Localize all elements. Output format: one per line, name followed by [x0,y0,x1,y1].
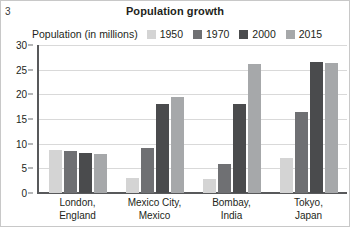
bar-1970 [64,151,77,193]
legend-label-1950: 1950 [160,28,183,40]
category-label: Bombay,India [193,197,270,222]
y-tick-mark [28,45,33,46]
chart-title: Population growth [1,5,349,17]
y-tick-mark [28,69,33,70]
y-tick-mark [28,119,33,120]
y-tick-label: 15 [16,114,27,125]
bar-group [39,45,116,193]
y-tick-label: 30 [16,40,27,51]
y-tick-mark [28,168,33,169]
legend-item-2015: 2015 [286,28,322,40]
y-tick-label: 20 [16,89,27,100]
legend-swatch-2000 [239,30,248,39]
bar-2015 [325,63,338,193]
bar-1950 [203,179,216,193]
plot-area: 051015202530 [1,45,349,195]
chart-screenshot: 3 Population growth Population (in milli… [0,0,350,227]
legend-label-2000: 2000 [252,28,275,40]
legend-label-2015: 2015 [299,28,322,40]
chart-legend: Population (in millions) 1950 1970 2000 … [32,27,332,41]
bar-group [193,45,270,193]
bar-2000 [310,62,323,193]
bar-groups [39,45,347,193]
y-tick-mark [28,143,33,144]
y-tick-label: 10 [16,138,27,149]
category-label: Tokyo,Japan [270,197,347,222]
bar-2015 [248,64,261,193]
bar-2000 [233,104,246,193]
bar-2000 [156,104,169,193]
legend-swatch-2015 [286,30,295,39]
legend-label-1970: 1970 [206,28,229,40]
bar-1970 [218,164,231,193]
x-axis-category-labels: London,EnglandMexico City,MexicoBombay,I… [39,197,347,222]
bar-2000 [79,153,92,193]
legend-item-2000: 2000 [239,28,275,40]
bar-2015 [94,154,107,193]
category-label: London,England [39,197,116,222]
bar-1950 [280,158,293,193]
bar-2015 [171,97,184,193]
bar-1970 [295,112,308,193]
y-tick-mark [28,193,33,194]
y-tick-label: 5 [21,163,27,174]
bar-1970 [141,148,154,193]
bar-group [270,45,347,193]
legend-title: Population (in millions) [32,28,138,40]
bar-1950 [49,150,62,193]
category-label: Mexico City,Mexico [116,197,193,222]
legend-item-1950: 1950 [147,28,183,40]
y-axis: 051015202530 [1,45,35,193]
bar-group [116,45,193,193]
bar-1950 [126,178,139,193]
y-tick-label: 25 [16,64,27,75]
legend-item-1970: 1970 [193,28,229,40]
y-tick-mark [28,94,33,95]
legend-swatch-1970 [193,30,202,39]
y-tick-label: 0 [21,188,27,199]
legend-swatch-1950 [147,30,156,39]
